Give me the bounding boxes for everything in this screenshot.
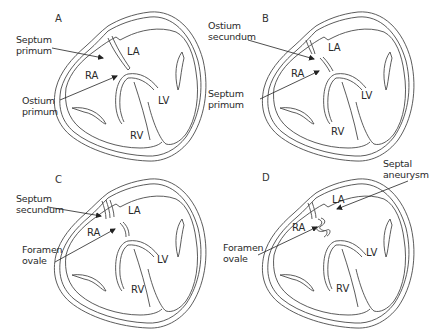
label-ra: RA bbox=[87, 227, 100, 238]
annotation-ostium-primum: Ostium primum bbox=[22, 95, 58, 117]
label-lv: LV bbox=[158, 95, 169, 106]
label-rv: RV bbox=[331, 126, 344, 137]
panel-letter: B bbox=[262, 13, 269, 24]
label-lv: LV bbox=[361, 90, 372, 101]
label-lv: LV bbox=[157, 254, 168, 265]
annotation-septal-aneurysm: Septal aneurysm bbox=[383, 158, 429, 180]
label-rv: RV bbox=[336, 283, 349, 294]
annotation-ostium-secundum: Ostium secundum bbox=[208, 20, 256, 42]
panel-letter: D bbox=[262, 172, 270, 183]
annotation-foramen-ovale: Foramen ovale bbox=[22, 244, 62, 266]
panel-b: B LA RA LV RV Ostium secundum Septum pri… bbox=[220, 0, 439, 167]
annotation-foramen-ovale: Foramen ovale bbox=[223, 242, 263, 264]
annotation-septum-primum: Septum primum bbox=[16, 34, 52, 56]
panel-a: A LA RA LV RV Septum primum Ostium primu… bbox=[0, 0, 220, 167]
annotation-septum-secundum: Septum secundum bbox=[16, 193, 64, 215]
panel-c: C LA RA LV RV Septum secundum Foramen ov… bbox=[0, 167, 220, 334]
label-ra: RA bbox=[291, 68, 304, 79]
heart-diagram-a bbox=[0, 0, 220, 167]
panel-letter: C bbox=[55, 174, 62, 185]
label-rv: RV bbox=[130, 130, 143, 141]
label-la: LA bbox=[328, 42, 341, 53]
label-ra: RA bbox=[85, 70, 98, 81]
panel-letter: A bbox=[55, 13, 62, 24]
annotation-septum-primum: Septum primum bbox=[208, 88, 244, 110]
label-la: LA bbox=[332, 194, 345, 205]
panel-d: D LA RA LV RV Septal aneurysm Foramen ov… bbox=[220, 167, 439, 334]
label-la: LA bbox=[127, 46, 140, 57]
label-rv: RV bbox=[131, 284, 144, 295]
label-lv: LV bbox=[366, 247, 377, 258]
label-la: LA bbox=[128, 205, 141, 216]
label-ra: RA bbox=[292, 222, 305, 233]
